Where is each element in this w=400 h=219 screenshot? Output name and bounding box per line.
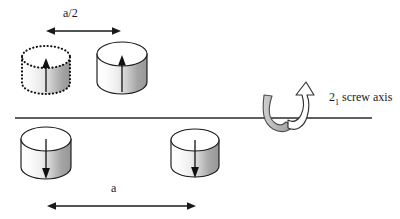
a-half-dimension-arrow (46, 27, 121, 35)
screw-axis-curved-arrow (263, 82, 314, 132)
screw-axis-white-arrow (288, 82, 314, 129)
label-a: a (111, 182, 116, 194)
cylinder-bottom-right-solid (171, 129, 219, 178)
cylinder-top-left-ghost (22, 46, 70, 94)
diagram-canvas (0, 0, 400, 219)
cylinder-top-right-solid (97, 42, 147, 94)
screw-axis-subscript: 1 (335, 98, 339, 107)
label-screw-axis: 21 screw axis (329, 91, 392, 106)
screw-axis-diagram: a/2 a 21 screw axis (0, 0, 400, 219)
a-dimension-arrow (47, 202, 196, 210)
screw-axis-text: screw axis (339, 90, 392, 104)
label-a-half: a/2 (63, 7, 78, 19)
cylinder-bottom-left-solid (21, 127, 71, 179)
